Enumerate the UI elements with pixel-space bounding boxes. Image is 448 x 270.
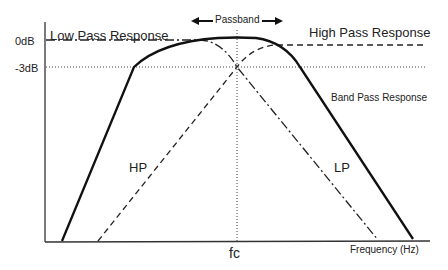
minus3-db-label: -3dB: [15, 62, 38, 74]
zero-db-label: 0dB: [15, 35, 35, 47]
frequency-axis-label: Frequency (Hz): [350, 244, 419, 255]
high-pass-response-label: High Pass Response: [309, 25, 430, 40]
band-pass-response-label: Band Pass Response: [331, 92, 427, 103]
high-pass-curve: [98, 45, 426, 241]
x-axis: [45, 241, 430, 242]
passband-label: Passband: [215, 14, 259, 25]
lp-label: LP: [334, 160, 350, 175]
fc-label: fc: [229, 245, 240, 261]
low-pass-response-label: Low Pass Response: [50, 28, 169, 43]
hp-label: HP: [129, 160, 147, 175]
low-pass-curve: [46, 40, 378, 240]
